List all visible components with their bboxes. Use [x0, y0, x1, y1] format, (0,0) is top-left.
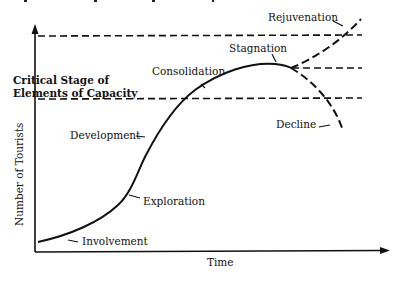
threshold-label-line1: Critical Stage of [13, 74, 110, 86]
stage-label-exploration: Exploration [143, 195, 205, 207]
cropped-title-remnant [24, 0, 214, 2]
stage-label-rejuvenation: Rejuvenation [268, 11, 338, 23]
stage-label-development: Development [70, 129, 141, 141]
stage-label-decline: Decline [276, 118, 316, 130]
arrow-right-icon [380, 247, 390, 254]
threshold-label-line2: Elements of Capacity [13, 87, 138, 99]
x-axis-label: Time [207, 256, 234, 268]
stage-label-involvement: Involvement [82, 235, 149, 247]
arrow-up-icon [32, 24, 39, 34]
x-axis [35, 247, 390, 254]
tourism-area-life-cycle-diagram: Critical Stage of Elements of Capacity I… [0, 0, 403, 281]
y-axis [32, 24, 39, 252]
y-axis-label: Number of Tourists [13, 123, 25, 226]
stage-label-stagnation: Stagnation [229, 42, 287, 54]
rejuvenation-curve [291, 19, 361, 68]
stage-label-consolidation: Consolidation [152, 65, 225, 77]
threshold-line-upper [38, 35, 362, 36]
